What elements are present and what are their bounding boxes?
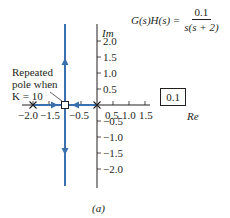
annotation-line: pole when (12, 78, 58, 90)
tf-fraction: 0.1 s(s + 2) (184, 6, 218, 34)
x-tick-label: −0.5 (69, 110, 89, 121)
tf-denominator: s(s + 2) (184, 20, 218, 34)
gain-value-box: 0.1 (160, 88, 186, 106)
arrow-down-icon (62, 148, 69, 155)
y-tick-label: 1.5 (103, 52, 117, 63)
x-axis-label: Re (187, 111, 199, 122)
annotation-line: Repeated (12, 66, 58, 78)
arrow-up-icon (62, 58, 69, 65)
x-tick-label: 1.5 (139, 110, 153, 121)
x-tick-label: −2.0 (18, 110, 38, 121)
annotation-line: K = 10 (12, 90, 58, 102)
tf-lhs: G(s)H(s) = (131, 14, 180, 26)
arrow-left-icon (72, 102, 79, 109)
y-tick-label: 2.0 (103, 36, 117, 47)
repeated-pole-square-icon (62, 102, 69, 109)
x-tick-label: 0.5 (105, 110, 119, 121)
x-tick-label: 1.0 (122, 110, 136, 121)
y-tick-label: −1.0 (103, 132, 123, 143)
x-tick-label: −1.5 (40, 110, 60, 121)
figure-caption: (a) (92, 202, 105, 214)
transfer-function: G(s)H(s) = 0.1 s(s + 2) (131, 6, 219, 34)
arrow-right-icon (51, 102, 58, 109)
y-tick-label: 0.5 (103, 84, 117, 95)
tf-numerator: 0.1 (192, 6, 212, 20)
y-tick-label: −1.5 (103, 148, 123, 159)
y-tick-label: −2.0 (103, 164, 123, 175)
y-tick-label: 1.0 (103, 68, 117, 79)
repeated-pole-annotation: Repeated pole when K = 10 (12, 66, 58, 102)
